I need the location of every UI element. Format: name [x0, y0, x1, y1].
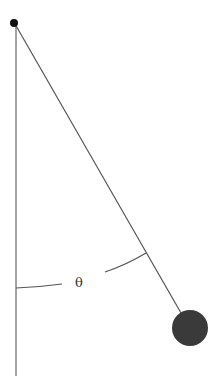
- pendulum-diagram: θ: [0, 0, 221, 390]
- angle-label-theta: θ: [75, 275, 83, 290]
- angle-arc-right: [105, 253, 146, 272]
- pendulum-bob: [172, 310, 208, 346]
- pivot-point: [10, 19, 18, 27]
- angle-arc-left: [16, 284, 62, 288]
- pendulum-string: [15, 24, 181, 313]
